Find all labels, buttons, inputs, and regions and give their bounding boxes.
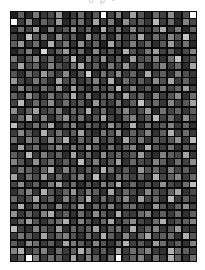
- heatmap-cell: [47, 196, 54, 203]
- heatmap-cell: [137, 166, 144, 173]
- heatmap-cell-swatch: [130, 12, 136, 18]
- heatmap-cell-swatch: [123, 71, 129, 77]
- heatmap-cell-swatch: [190, 145, 196, 151]
- heatmap-cell-swatch: [78, 56, 84, 62]
- heatmap-cell: [107, 144, 114, 151]
- heatmap-cell-swatch: [123, 63, 129, 69]
- heatmap-cell-swatch: [190, 49, 196, 55]
- heatmap-cell: [47, 33, 54, 40]
- heatmap-cell-swatch: [86, 189, 92, 195]
- heatmap-cell-swatch: [145, 219, 151, 225]
- heatmap-cell-swatch: [71, 174, 77, 180]
- heatmap-cell-swatch: [101, 93, 107, 99]
- heatmap-cell: [47, 188, 54, 195]
- heatmap-cell: [85, 151, 92, 158]
- heatmap-cell-swatch: [78, 211, 84, 217]
- heatmap-cell-swatch: [190, 115, 196, 121]
- heatmap-cell-swatch: [71, 182, 77, 188]
- heatmap-cell: [130, 63, 137, 70]
- heatmap-cell: [62, 196, 69, 203]
- heatmap-cell-swatch: [33, 211, 39, 217]
- heatmap-cell: [40, 151, 47, 158]
- heatmap-cell-swatch: [160, 41, 166, 47]
- heatmap-cell: [167, 136, 174, 143]
- heatmap-cell: [10, 114, 17, 121]
- heatmap-cell-swatch: [86, 115, 92, 121]
- heatmap-cell-swatch: [11, 233, 17, 239]
- heatmap-cell-swatch: [101, 86, 107, 92]
- heatmap-cell: [122, 255, 129, 262]
- heatmap-cell-swatch: [63, 255, 69, 261]
- heatmap-cell-swatch: [71, 34, 77, 40]
- heatmap-cell-swatch: [116, 123, 122, 129]
- heatmap-cell-swatch: [56, 86, 62, 92]
- heatmap-cell: [62, 41, 69, 48]
- heatmap-cell-swatch: [78, 145, 84, 151]
- heatmap-cell-swatch: [168, 174, 174, 180]
- heatmap-cell: [175, 70, 182, 77]
- heatmap-cell: [100, 129, 107, 136]
- heatmap-cell-swatch: [138, 27, 144, 33]
- heatmap-cell-swatch: [33, 34, 39, 40]
- heatmap-cell-swatch: [63, 189, 69, 195]
- heatmap-cell: [17, 48, 24, 55]
- heatmap-cell-swatch: [71, 189, 77, 195]
- heatmap-cell: [85, 196, 92, 203]
- heatmap-cell-swatch: [190, 56, 196, 62]
- heatmap-cell-swatch: [116, 189, 122, 195]
- heatmap-cell-swatch: [108, 255, 114, 261]
- heatmap-cell-swatch: [138, 182, 144, 188]
- heatmap-cell: [137, 48, 144, 55]
- heatmap-cell: [115, 196, 122, 203]
- heatmap-cell: [190, 11, 197, 18]
- heatmap-cell-swatch: [78, 241, 84, 247]
- heatmap-cell: [175, 55, 182, 62]
- heatmap-cell: [47, 144, 54, 151]
- heatmap-cell: [62, 55, 69, 62]
- heatmap-cell: [122, 33, 129, 40]
- heatmap-cell: [130, 218, 137, 225]
- heatmap-cell: [25, 181, 32, 188]
- heatmap-cell-swatch: [130, 56, 136, 62]
- heatmap-cell-swatch: [183, 241, 189, 247]
- clipped-caption-label: o p -: [88, 0, 116, 5]
- heatmap-cell-swatch: [33, 196, 39, 202]
- heatmap-cell-swatch: [190, 34, 196, 40]
- heatmap-cell-swatch: [160, 226, 166, 232]
- heatmap-cell: [70, 129, 77, 136]
- heatmap-cell: [70, 114, 77, 121]
- heatmap-cell: [25, 247, 32, 254]
- heatmap-cell: [85, 92, 92, 99]
- heatmap-cell-swatch: [160, 137, 166, 143]
- heatmap-cell-swatch: [123, 248, 129, 254]
- heatmap-cell-swatch: [11, 219, 17, 225]
- heatmap-cell-swatch: [160, 255, 166, 261]
- heatmap-cell: [167, 92, 174, 99]
- heatmap-cell: [100, 85, 107, 92]
- heatmap-cell-swatch: [18, 182, 24, 188]
- heatmap-cell-swatch: [93, 123, 99, 129]
- heatmap-cell-swatch: [138, 174, 144, 180]
- heatmap-cell: [152, 77, 159, 84]
- heatmap-cell-swatch: [33, 204, 39, 210]
- heatmap-cell: [152, 210, 159, 217]
- heatmap-cell-swatch: [56, 78, 62, 84]
- heatmap-cell-swatch: [11, 174, 17, 180]
- heatmap-cell: [40, 181, 47, 188]
- heatmap-cell: [167, 70, 174, 77]
- heatmap-cell: [122, 136, 129, 143]
- heatmap-cell: [62, 240, 69, 247]
- heatmap-cell-swatch: [168, 233, 174, 239]
- heatmap-cell: [182, 85, 189, 92]
- heatmap-cell: [160, 151, 167, 158]
- heatmap-cell-swatch: [168, 115, 174, 121]
- heatmap-cell: [77, 26, 84, 33]
- heatmap-cell-swatch: [11, 86, 17, 92]
- heatmap-cell-swatch: [93, 255, 99, 261]
- heatmap-cell-swatch: [153, 49, 159, 55]
- heatmap-cell-swatch: [168, 63, 174, 69]
- heatmap-cell-swatch: [190, 226, 196, 232]
- heatmap-cell: [40, 144, 47, 151]
- heatmap-cell: [47, 225, 54, 232]
- heatmap-cell: [10, 255, 17, 262]
